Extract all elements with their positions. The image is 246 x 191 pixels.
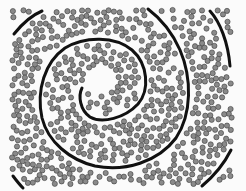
particle-dot [160, 60, 165, 65]
particle-dot [216, 61, 221, 66]
particle-dot [98, 18, 103, 23]
particle-dot [176, 75, 181, 80]
particle-dot [64, 33, 69, 38]
particle-dot [37, 163, 42, 168]
particle-dot [139, 38, 144, 43]
particle-dot [190, 166, 195, 171]
particle-dot [208, 18, 213, 23]
particle-dot [88, 170, 93, 175]
particle-dot [167, 174, 172, 179]
particle-dot [146, 164, 151, 169]
particle-dot [116, 62, 121, 67]
particle-dot [127, 122, 132, 127]
particle-dot [158, 133, 163, 138]
particle-dot [224, 123, 229, 128]
particle-dot [183, 171, 188, 176]
particle-dot [189, 14, 194, 19]
particle-dot [17, 118, 22, 123]
particle-dot [115, 89, 120, 94]
particle-dot [178, 70, 183, 75]
particle-dot [81, 54, 86, 59]
particle-dot [10, 155, 15, 160]
particle-dot [63, 130, 68, 135]
particle-dot [94, 101, 99, 106]
particle-dot [94, 59, 99, 64]
particle-dot [137, 20, 142, 25]
particle-dot [61, 137, 66, 142]
particle-dot [115, 122, 120, 127]
particle-dot [166, 112, 171, 117]
particle-dot [70, 108, 75, 113]
particle-dot [120, 151, 125, 156]
particle-dot [201, 99, 206, 104]
particle-dot [220, 95, 225, 100]
particle-dot [127, 85, 132, 90]
particle-dot [213, 76, 218, 81]
particle-dot [124, 103, 129, 108]
particle-dot [180, 90, 185, 95]
particle-dot [12, 92, 17, 97]
particle-dot [66, 161, 71, 166]
particle-dot [132, 80, 137, 85]
particle-dot [154, 161, 159, 166]
particle-dot [73, 80, 78, 85]
particle-dot [199, 159, 204, 164]
particle-dot [114, 17, 119, 22]
particle-dot [132, 91, 137, 96]
particle-dot [179, 25, 184, 30]
particle-dot [56, 97, 61, 102]
particle-dot [202, 45, 207, 50]
particle-dot [202, 120, 207, 125]
particle-dot [11, 15, 16, 20]
particle-dot [201, 15, 206, 20]
particle-dot [168, 167, 173, 172]
particle-dot [149, 97, 154, 102]
particle-dot [196, 111, 201, 116]
particle-dot [103, 111, 108, 116]
particle-dot [149, 78, 154, 83]
particle-dot [193, 149, 198, 154]
particle-dot [139, 143, 144, 148]
particle-dot [32, 114, 37, 119]
particle-dot [80, 8, 85, 13]
particle-dot [128, 177, 133, 182]
particle-dot [171, 66, 176, 71]
particle-dot [60, 85, 65, 90]
particle-dot [10, 97, 15, 102]
particle-dot [117, 130, 122, 135]
particle-dot [205, 94, 210, 99]
particle-dot [59, 115, 64, 120]
particle-dot [210, 71, 215, 76]
particle-dot [213, 147, 218, 152]
particle-dot [111, 152, 116, 157]
particle-dot [223, 89, 228, 94]
particle-dot [151, 66, 156, 71]
particle-dot [228, 139, 233, 144]
particle-dot [23, 99, 28, 104]
particle-dot [48, 44, 53, 49]
particle-dot [76, 129, 81, 134]
particle-dot [121, 139, 126, 144]
particle-dot [149, 134, 154, 139]
particle-dot [54, 77, 59, 82]
particle-dot [26, 9, 31, 14]
particle-dot [86, 105, 91, 110]
particle-dot [22, 176, 27, 181]
particle-dot [43, 92, 48, 97]
particle-dot [123, 80, 128, 85]
particle-dot [142, 107, 147, 112]
particle-dot [181, 18, 186, 23]
particle-dot [129, 57, 134, 62]
particle-dot [173, 171, 178, 176]
particle-dot [55, 119, 60, 124]
particle-dot [32, 167, 37, 172]
particle-dot [117, 145, 122, 150]
particle-dot [217, 143, 222, 148]
particle-dot [171, 16, 176, 21]
particle-dot [11, 124, 16, 129]
particle-dot [99, 141, 104, 146]
particle-dot [77, 68, 82, 73]
particle-dot [105, 100, 110, 105]
particle-dot [52, 128, 57, 133]
particle-dot [208, 148, 213, 153]
